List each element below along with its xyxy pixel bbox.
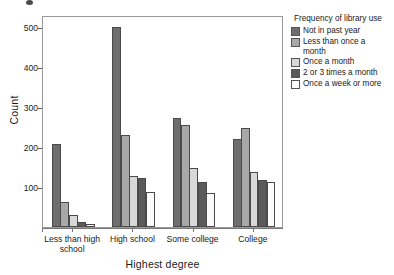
legend-entry: Once a month — [291, 57, 394, 67]
legend-entry: Less than once a month — [291, 37, 394, 56]
legend-entry-label: 2 or 3 times a month — [303, 68, 378, 78]
x-axis-tick-mark — [72, 228, 73, 232]
legend-entry-label: Once a month — [303, 57, 354, 67]
y-axis-tick-mark — [38, 28, 42, 29]
x-axis-tick-mark — [42, 228, 43, 232]
x-axis-title: Highest degree — [42, 258, 283, 270]
y-axis-tick-mark — [38, 108, 42, 109]
x-axis-tick-label: College — [213, 234, 293, 244]
bar — [146, 192, 155, 227]
legend-entry-label: Not in past year — [303, 26, 360, 36]
legend-entry: Once a week or more — [291, 79, 394, 89]
bar — [206, 193, 215, 227]
y-axis-tick-label: 400 — [12, 64, 38, 73]
bar-chart-figure: Count 100200300400500 Highest degree Fre… — [0, 0, 394, 275]
legend-color-swatch — [291, 58, 300, 67]
legend-entry-label: Less than once a month — [303, 37, 365, 56]
legend-color-swatch — [291, 80, 300, 89]
y-axis-tick-label: 300 — [12, 104, 38, 113]
legend-entry: 2 or 3 times a month — [291, 68, 394, 78]
legend-entries: Not in past yearLess than once a monthOn… — [291, 26, 394, 89]
bar — [267, 182, 276, 227]
legend-entry: Not in past year — [291, 26, 394, 36]
bars-layer — [43, 17, 282, 227]
x-axis-line — [42, 228, 283, 229]
legend: Frequency of library use Not in past yea… — [291, 14, 394, 90]
legend-title: Frequency of library use — [294, 14, 394, 24]
legend-color-swatch — [291, 69, 300, 78]
x-axis-tick-mark — [193, 228, 194, 232]
legend-color-swatch — [291, 27, 300, 36]
y-axis-tick-label: 200 — [12, 144, 38, 153]
x-axis-tick-mark — [132, 228, 133, 232]
y-axis-tick-mark — [38, 148, 42, 149]
x-axis-tick-mark — [253, 228, 254, 232]
y-axis-tick-label: 500 — [12, 24, 38, 33]
y-axis-tick-label: 100 — [12, 184, 38, 193]
plot-area — [42, 16, 283, 228]
legend-color-swatch — [291, 38, 300, 47]
y-axis-tick-mark — [38, 188, 42, 189]
bar — [86, 224, 95, 227]
y-axis-tick-mark — [38, 68, 42, 69]
legend-entry-label: Once a week or more — [303, 79, 381, 89]
